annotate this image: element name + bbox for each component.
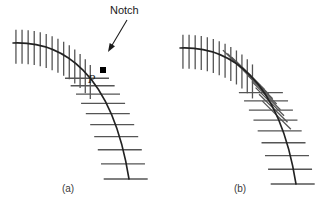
panel-b-curve	[180, 48, 296, 184]
panel-a-caption: (a)	[62, 183, 74, 194]
notch-arrow-head	[108, 43, 115, 52]
notch-arrow-line	[112, 20, 127, 46]
panel-a-hatch-upper-marks	[16, 30, 90, 99]
point-p-marker	[100, 67, 106, 73]
panel-b-caption: (b)	[234, 183, 246, 194]
panel-a-hatch-lower-marks	[65, 78, 148, 179]
panel-a-curve	[13, 43, 129, 179]
figure-container: P (a) (b) Notch	[0, 0, 326, 206]
notch-annotation: Notch	[108, 4, 139, 52]
point-p-label: P	[87, 72, 96, 86]
panel-a: P (a)	[13, 30, 148, 194]
notch-label: Notch	[110, 4, 139, 16]
panel-b: (b)	[180, 35, 315, 194]
technical-diagram: P (a) (b) Notch	[0, 0, 326, 206]
